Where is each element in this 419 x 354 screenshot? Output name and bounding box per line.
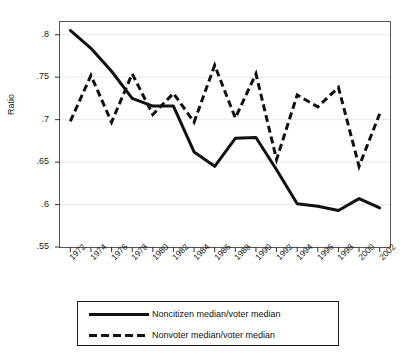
chart-figure: Ratio .55.6.65.7.75.8 197219741976197819… xyxy=(0,0,419,354)
legend-label-noncitizen: Noncitizen median/voter median xyxy=(152,309,281,319)
y-tick-label: .7 xyxy=(21,114,49,124)
legend-label-nonvoter: Nonvoter median/voter median xyxy=(152,330,275,340)
series-line-noncitizen xyxy=(70,30,379,210)
y-tick-label: .6 xyxy=(21,199,49,209)
y-tick-label: .75 xyxy=(21,71,49,81)
solid-line-key xyxy=(86,308,152,320)
dashed-line-key xyxy=(86,329,152,341)
gridlines xyxy=(60,35,390,247)
y-tick-label: .65 xyxy=(21,156,49,166)
chart-legend: Noncitizen median/voter median Nonvoter … xyxy=(77,301,339,346)
legend-item-nonvoter: Nonvoter median/voter median xyxy=(78,324,338,346)
y-tick-label: .8 xyxy=(21,29,49,39)
legend-item-noncitizen: Noncitizen median/voter median xyxy=(78,303,338,325)
plot-frame xyxy=(60,22,391,248)
y-tick-label: .55 xyxy=(21,241,49,251)
